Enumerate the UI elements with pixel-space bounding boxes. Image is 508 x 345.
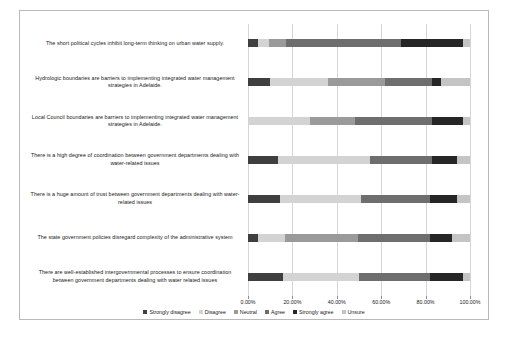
category-label-text: Local Council boundaries are barriers to… (30, 114, 240, 129)
legend-swatch-icon (342, 310, 346, 314)
legend-label: Unsure (348, 309, 365, 315)
bar-segment[interactable] (248, 195, 280, 203)
legend-item[interactable]: Neutral (234, 309, 257, 315)
x-tick-label: 40.00% (328, 299, 346, 305)
x-axis-tick-labels: 0.00%20.00%40.00%60.00%80.00%100.00% (248, 299, 470, 309)
bar-segment[interactable] (286, 39, 401, 47)
bar-segment[interactable] (280, 195, 361, 203)
bar-segment[interactable] (401, 39, 463, 47)
bar-segment[interactable] (248, 234, 258, 242)
gridline-100 (470, 24, 471, 296)
bar-rows (248, 24, 470, 296)
legend-item[interactable]: Strongly agree (293, 309, 333, 315)
bar-segment[interactable] (359, 273, 430, 281)
category-label-text: There are well-established intergovernme… (30, 269, 240, 284)
category-label: Hydrologic boundaries are barriers to im… (30, 63, 240, 102)
stacked-bar[interactable] (248, 234, 470, 242)
stacked-bar[interactable] (248, 78, 470, 86)
x-tick-label: 60.00% (372, 299, 390, 305)
bar-segment[interactable] (457, 156, 470, 164)
category-label-text: There is a high degree of coordination b… (30, 152, 240, 167)
bar-row (248, 102, 470, 141)
chart-page: The short political cycles inhibit long-… (0, 0, 508, 345)
bar-segment[interactable] (463, 117, 470, 125)
bar-segment[interactable] (457, 195, 470, 203)
bar-row (248, 218, 470, 257)
bar-row (248, 24, 470, 63)
category-label: The state government policies disregard … (30, 218, 240, 257)
bar-segment[interactable] (370, 156, 432, 164)
bar-segment[interactable] (432, 117, 463, 125)
legend-item[interactable]: Strongly disagree (143, 309, 190, 315)
legend-swatch-icon (293, 310, 297, 314)
legend-item[interactable]: Disagree (199, 309, 226, 315)
stacked-bar[interactable] (248, 195, 470, 203)
stacked-bar[interactable] (248, 273, 470, 281)
category-label-text: The short political cycles inhibit long-… (30, 40, 240, 48)
bar-segment[interactable] (355, 117, 433, 125)
bar-row (248, 141, 470, 180)
x-tick-label: 80.00% (417, 299, 435, 305)
category-label: Local Council boundaries are barriers to… (30, 102, 240, 141)
bar-segment[interactable] (310, 117, 355, 125)
bar-segment[interactable] (430, 195, 457, 203)
bar-segment[interactable] (270, 78, 328, 86)
legend-swatch-icon (143, 310, 147, 314)
bar-segment[interactable] (248, 39, 258, 47)
stacked-bar[interactable] (248, 156, 470, 164)
bar-segment[interactable] (430, 273, 463, 281)
plot-area (248, 24, 470, 296)
x-tick-label: 0.00% (240, 299, 255, 305)
bar-row (248, 257, 470, 296)
category-label: The short political cycles inhibit long-… (30, 24, 240, 63)
bar-segment[interactable] (432, 156, 456, 164)
legend-label: Neutral (240, 309, 257, 315)
chart-frame: The short political cycles inhibit long-… (19, 10, 489, 320)
bar-segment[interactable] (452, 234, 470, 242)
bar-segment[interactable] (248, 156, 278, 164)
stacked-bar[interactable] (248, 117, 470, 125)
bar-segment[interactable] (258, 234, 285, 242)
x-tick-label: 20.00% (283, 299, 301, 305)
category-label-text: Hydrologic boundaries are barriers to im… (30, 75, 240, 90)
legend-label: Strongly agree (299, 309, 333, 315)
category-label: There is a huge amount of trust between … (30, 179, 240, 218)
bar-segment[interactable] (361, 195, 430, 203)
bar-segment[interactable] (432, 78, 441, 86)
legend-swatch-icon (265, 310, 269, 314)
x-tick-label: 100.00% (460, 299, 481, 305)
bar-segment[interactable] (283, 273, 359, 281)
category-label-text: There is a huge amount of trust between … (30, 191, 240, 206)
legend-item[interactable]: Agree (265, 309, 285, 315)
bar-segment[interactable] (441, 78, 470, 86)
category-label: There is a high degree of coordination b… (30, 141, 240, 180)
bar-segment[interactable] (248, 273, 283, 281)
bar-segment[interactable] (269, 39, 286, 47)
legend-item[interactable]: Unsure (342, 309, 365, 315)
legend-label: Agree (271, 309, 285, 315)
bar-segment[interactable] (463, 39, 470, 47)
bar-row (248, 63, 470, 102)
bar-segment[interactable] (248, 78, 270, 86)
bar-segment[interactable] (385, 78, 433, 86)
legend-swatch-icon (234, 310, 238, 314)
bar-segment[interactable] (430, 234, 452, 242)
stacked-bar[interactable] (248, 39, 470, 47)
legend-label: Strongly disagree (149, 309, 190, 315)
legend-label: Disagree (205, 309, 226, 315)
category-label: There are well-established intergovernme… (30, 257, 240, 296)
bar-segment[interactable] (463, 273, 470, 281)
chart-legend: Strongly disagreeDisagreeNeutralAgreeStr… (20, 309, 488, 315)
category-label-text: The state government policies disregard … (30, 234, 240, 242)
bar-segment[interactable] (278, 156, 370, 164)
bar-row (248, 179, 470, 218)
bar-segment[interactable] (258, 39, 269, 47)
bar-segment[interactable] (358, 234, 430, 242)
category-axis-labels: The short political cycles inhibit long-… (30, 24, 244, 296)
bar-segment[interactable] (328, 78, 385, 86)
legend-swatch-icon (199, 310, 203, 314)
bar-segment[interactable] (285, 234, 358, 242)
bar-segment[interactable] (248, 117, 310, 125)
